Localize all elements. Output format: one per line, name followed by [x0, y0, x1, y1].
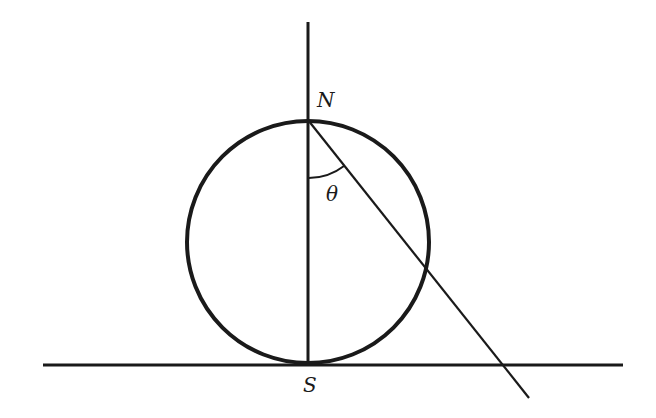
label-south: S	[303, 373, 317, 397]
stereographic-projection-diagram: N S θ	[0, 0, 656, 418]
angle-arc	[308, 166, 344, 178]
label-theta: θ	[326, 182, 338, 206]
label-north: N	[316, 88, 336, 112]
